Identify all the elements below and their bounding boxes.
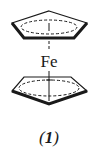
- ferrocene-structure: Fe (1): [0, 0, 99, 152]
- compound-label: (1): [39, 128, 59, 147]
- iron-atom-label: Fe: [41, 52, 58, 71]
- compound-number: 1: [45, 128, 54, 147]
- bottom-cyclopentadienyl-ring: [12, 71, 87, 104]
- top-cyclopentadienyl-ring: [12, 11, 87, 38]
- compound-label-close-paren: ): [52, 128, 59, 147]
